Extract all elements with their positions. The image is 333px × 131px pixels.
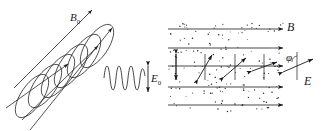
helix-coil xyxy=(9,19,120,123)
medium-dot xyxy=(217,108,219,110)
medium-dot xyxy=(197,50,199,52)
medium-dot xyxy=(241,32,242,33)
medium-dot-field xyxy=(169,23,284,112)
medium-dot xyxy=(267,107,268,108)
medium-dot xyxy=(261,109,262,110)
medium-dot xyxy=(259,60,261,62)
medium-dot xyxy=(208,33,209,34)
medium-dot xyxy=(259,98,260,99)
medium-dot xyxy=(186,27,187,28)
medium-dot xyxy=(225,48,227,50)
medium-dot xyxy=(176,105,177,106)
medium-dot xyxy=(173,50,174,51)
medium-dot xyxy=(186,24,187,25)
medium-dot xyxy=(270,62,271,63)
medium-dot xyxy=(271,91,273,93)
polarization-vector-4 xyxy=(252,54,277,80)
medium-dot xyxy=(222,34,223,35)
medium-dot xyxy=(251,27,252,28)
medium-dot xyxy=(208,85,209,86)
medium-dot xyxy=(207,80,208,81)
medium-dot xyxy=(169,69,170,70)
medium-dot xyxy=(247,24,248,25)
medium-dot xyxy=(181,52,182,53)
medium-dot xyxy=(240,68,241,69)
medium-dot xyxy=(244,30,245,31)
label-e0: E0 xyxy=(151,72,161,86)
medium-dot xyxy=(269,59,270,60)
medium-dot xyxy=(221,66,222,67)
medium-dot xyxy=(221,103,222,104)
propagation-arrow-group xyxy=(6,10,112,130)
medium-dot xyxy=(266,102,267,103)
label-b0: B0 xyxy=(70,11,80,25)
medium-dot xyxy=(215,101,216,102)
medium-dot xyxy=(210,93,212,95)
medium-dot xyxy=(209,43,211,45)
medium-dot xyxy=(227,111,228,112)
medium-dot xyxy=(230,83,231,84)
medium-dot xyxy=(248,97,249,98)
medium-dot xyxy=(222,91,223,92)
left-panel-wave-group xyxy=(6,10,148,130)
medium-dot xyxy=(178,52,179,53)
medium-dot xyxy=(213,54,215,56)
medium-dot xyxy=(192,92,193,93)
medium-dot xyxy=(182,23,184,25)
medium-dot xyxy=(228,39,229,40)
medium-dot xyxy=(174,103,175,104)
medium-dot xyxy=(254,89,255,90)
medium-dot xyxy=(171,87,172,88)
medium-dot xyxy=(228,67,229,68)
medium-dot xyxy=(259,25,260,26)
medium-dot xyxy=(216,69,217,70)
medium-dot xyxy=(222,100,223,101)
medium-dot xyxy=(277,70,278,71)
medium-dot xyxy=(268,107,269,108)
medium-dot xyxy=(282,23,283,24)
medium-dot xyxy=(184,68,185,69)
medium-dot xyxy=(230,32,231,33)
medium-dot xyxy=(203,93,204,94)
medium-dot xyxy=(218,34,220,36)
propagation-arrow-2 xyxy=(22,46,98,120)
propagation-arrow-4 xyxy=(14,10,92,88)
medium-dot xyxy=(184,38,185,39)
medium-dot xyxy=(222,38,223,39)
medium-dot xyxy=(238,33,239,34)
medium-dot xyxy=(251,23,252,24)
medium-dot xyxy=(175,88,176,89)
medium-dot xyxy=(226,84,227,85)
medium-dot xyxy=(211,84,212,85)
medium-dot xyxy=(225,88,226,89)
medium-dot xyxy=(192,37,194,39)
medium-dot xyxy=(179,88,181,90)
medium-dot xyxy=(210,44,211,45)
medium-dot xyxy=(243,54,244,55)
medium-dot xyxy=(186,50,187,51)
medium-dot xyxy=(170,96,171,97)
medium-dot xyxy=(190,107,191,108)
medium-dot xyxy=(217,87,218,88)
medium-dot xyxy=(279,52,280,53)
medium-dot xyxy=(215,25,216,26)
medium-dot xyxy=(209,73,211,75)
medium-dot xyxy=(251,51,252,52)
medium-dot xyxy=(188,43,189,44)
medium-dot xyxy=(194,62,195,63)
medium-dot xyxy=(247,39,248,40)
polarization-vector-3 xyxy=(224,54,246,80)
medium-dot xyxy=(179,26,180,27)
medium-dot xyxy=(179,81,180,82)
phi-arc xyxy=(292,56,297,62)
propagation-arrow-1 xyxy=(6,64,68,108)
medium-dot xyxy=(262,62,263,63)
medium-dot xyxy=(170,51,171,52)
medium-dot xyxy=(186,96,187,97)
medium-dot xyxy=(211,93,212,94)
medium-dot xyxy=(198,72,199,73)
propagation-arrow-3 xyxy=(30,28,112,130)
medium-dot xyxy=(250,68,251,69)
medium-dot xyxy=(243,84,244,85)
label-e: E xyxy=(304,74,311,89)
